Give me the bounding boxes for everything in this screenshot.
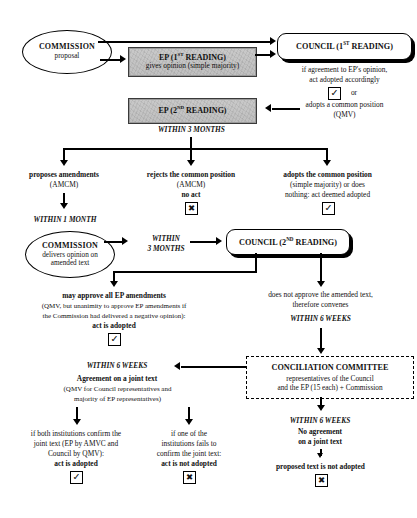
connector-ep2-split-bar <box>63 148 328 150</box>
approve-line4: act is adopted <box>24 322 204 331</box>
connector-commission-to-council1 <box>98 41 272 43</box>
arrowhead-mid-to-council2 <box>216 237 222 245</box>
council1-outcome-line1: if agreement to EP's opinion, <box>272 66 417 75</box>
connector-council1-to-ep2 <box>272 108 300 110</box>
arrowhead-may-approve <box>110 281 118 287</box>
label-within-3-months-mid-line2: 3 MONTHS <box>136 245 196 254</box>
arrowhead-commission-to-council1 <box>270 37 276 45</box>
branch-reject-line3: no act <box>128 191 254 200</box>
council-first-reading-label: COUNCIL (1ST READING) <box>296 42 393 51</box>
council-second-reading-label: COUNCIL (2ND READING) <box>239 238 337 247</box>
arrowhead-noagree-result <box>317 453 323 458</box>
approve-line3: the Commission had delivered a negative … <box>14 312 214 320</box>
arrowhead-commission-to-ep1 <box>120 55 126 63</box>
fail-line4: act is not adopted <box>140 460 238 469</box>
fail-line1: if one of the <box>140 430 238 439</box>
fail-line2: institutions fails to <box>140 440 238 449</box>
connector-commission-to-ep1 <box>100 59 122 61</box>
fail-line3: confirm the joint text: <box>140 450 238 459</box>
arrowhead-amend-down <box>60 203 68 209</box>
confirm-line1: if both institutions confirm the <box>14 430 138 439</box>
council1-outcome-line2: act adopted accordingly <box>272 76 417 85</box>
agreement-line3: majority of EP representatives) <box>30 395 205 403</box>
commission-opinion-line2: delivers opinion on <box>42 251 98 259</box>
commission-proposal-line2: proposal <box>55 52 80 60</box>
commission-opinion-line3: amended text <box>51 259 90 267</box>
branch-amend-line2: (AMCM) <box>8 181 120 190</box>
notapprove-line2: therefore convenes <box>248 301 393 310</box>
node-commission-proposal: COMMISSION proposal <box>22 30 112 74</box>
agreement-line2: (QMV for Council representatives and <box>30 385 205 393</box>
status-badge-council1-adopted: ✓ <box>328 87 341 100</box>
status-badge-approve-adopted: ✓ <box>108 333 121 346</box>
arrowhead-branch1 <box>60 160 68 166</box>
connector-to-conciliation <box>320 328 322 350</box>
branch-adopt-line2: (simple majority) or does <box>260 181 395 190</box>
flowchart-canvas: COMMISSION proposal EP (1ST READING) giv… <box>0 0 417 518</box>
connector-commission-opinion-right <box>104 241 124 243</box>
node-commission-opinion: COMMISSION delivers opinion on amended t… <box>25 231 115 278</box>
connector-mid-to-council2 <box>190 241 218 243</box>
arrowhead-confirm <box>73 419 81 425</box>
branch-reject-line1: rejects the common position <box>128 171 254 180</box>
arrowhead-not-approve <box>317 281 325 287</box>
approve-line1: may approve all EP amendments <box>24 292 204 301</box>
council1-alt-line2: (QMV) <box>272 111 417 120</box>
node-conciliation-committee: CONCILIATION COMMITTEE representatives o… <box>246 356 414 399</box>
agreement-line1: Agreement on a joint text <box>52 375 182 384</box>
branch-amend-line1: proposes amendments <box>8 171 120 180</box>
arrowhead-to-conciliation <box>317 348 325 354</box>
arrowhead-noagreement <box>317 405 325 411</box>
arrowhead-ep1-to-council1 <box>270 50 276 58</box>
branch-adopt-line3: nothing: act deemed adopted <box>256 191 399 200</box>
arrowhead-branch3 <box>323 160 331 166</box>
commission-opinion-line1: COMMISSION <box>42 242 98 251</box>
label-within-3-months-mid-line1: WITHIN <box>136 235 196 244</box>
status-badge-noagree-not-adopted: ✖ <box>315 474 328 487</box>
arrowhead-commission-opinion-right <box>122 237 128 245</box>
conciliation-line1: CONCILIATION COMMITTEE <box>272 363 389 373</box>
commission-proposal-line1: COMMISSION <box>39 43 95 52</box>
confirm-line4: act is adopted <box>14 460 138 469</box>
node-council-first-reading: COUNCIL (1ST READING) <box>277 33 412 60</box>
ep-first-reading-subtitle: gives opinion (simple majority) <box>146 62 239 71</box>
connector-conciliation-to-agreement <box>181 366 246 368</box>
arrowhead-council1-to-ep2 <box>265 104 271 112</box>
approve-line2: (QMV, but unanimity to approve EP amendm… <box>14 302 214 310</box>
label-within-3-months-ep2: WITHIN 3 MONTHS <box>128 126 255 135</box>
noagree-line3: proposed text is not adopted <box>248 463 393 472</box>
noagree-line1: No agreement <box>250 428 390 437</box>
branch-adopt-line1: adopts the common position <box>260 171 395 180</box>
noagree-within-label: WITHIN 6 WEEKS <box>250 417 390 426</box>
notapprove-line1: does not approve the amended text, <box>248 291 393 300</box>
noagree-line2: on a joint text <box>250 438 390 447</box>
connector-council2-left-bar <box>113 271 257 273</box>
council1-or-label: or <box>344 89 364 98</box>
status-badge-adopt-deemed: ✓ <box>322 202 335 215</box>
notapprove-within-label: WITHIN 6 WEEKS <box>248 315 393 324</box>
arrowhead-conciliation-to-agreement <box>174 362 180 370</box>
label-within-1-month: WITHIN 1 MONTH <box>10 216 120 225</box>
node-ep-second-reading: EP (2ND READING) <box>128 98 257 124</box>
status-badge-fail-not-adopted: ✖ <box>183 471 196 484</box>
arrowhead-branch2 <box>187 160 195 166</box>
status-badge-confirm-adopted: ✓ <box>70 471 83 484</box>
agreement-within-label: WITHIN 6 WEEKS <box>62 362 172 371</box>
confirm-line2: joint text (EP by AMVC and <box>14 440 138 449</box>
status-badge-reject-noact: ✖ <box>185 202 198 215</box>
connector-council2-right-stem <box>320 253 322 283</box>
confirm-line3: Council by QMV): <box>14 450 138 459</box>
connector-council2-left-stem <box>255 253 257 273</box>
arrowhead-fail <box>185 419 193 425</box>
conciliation-line3: and the EP (15 each) + Commission <box>277 383 382 392</box>
node-council-second-reading: COUNCIL (2ND READING) <box>226 229 350 255</box>
branch-reject-line2: (AMCM) <box>128 181 254 190</box>
conciliation-line2: representatives of the Council <box>286 374 373 383</box>
node-ep-first-reading: EP (1ST READING) gives opinion (simple m… <box>128 47 257 77</box>
ep-second-reading-label: EP (2ND READING) <box>158 106 226 116</box>
